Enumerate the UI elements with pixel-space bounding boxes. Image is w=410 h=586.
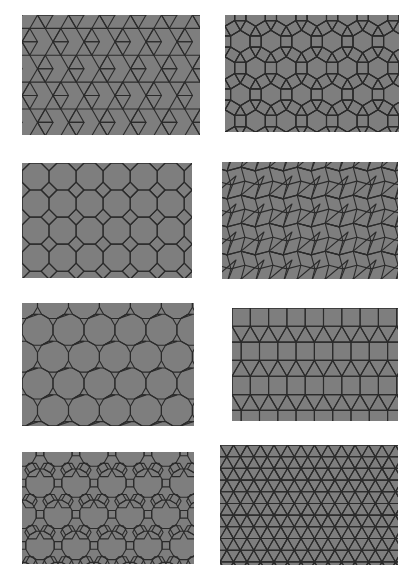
tiling-svg <box>22 163 192 278</box>
tiling-svg <box>225 15 399 132</box>
tiling-snub-hexagonal <box>220 445 398 565</box>
tiling-trihexagonal <box>22 15 200 135</box>
tiling-svg <box>22 15 200 135</box>
tiling-svg <box>220 445 398 565</box>
tiling-svg <box>222 162 398 279</box>
tiling-truncated-trihexagonal <box>22 452 194 564</box>
tiling-truncated-square <box>22 163 192 278</box>
tiling-svg <box>22 452 194 564</box>
tiling-elongated-triangular <box>232 308 398 421</box>
tiling-truncated-hexagonal <box>22 303 194 426</box>
tiling-svg <box>22 303 194 426</box>
tiling-svg <box>232 308 398 421</box>
tiling-rhombitrihexagonal <box>225 15 399 132</box>
tiling-snub-square <box>222 162 398 279</box>
